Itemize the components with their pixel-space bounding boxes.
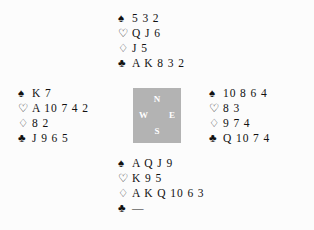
west-clubs-row: ♣ J 9 6 5 xyxy=(18,131,89,146)
west-hearts-row: ♡ A 10 7 4 2 xyxy=(18,101,89,116)
south-spades-row: ♠ A Q J 9 xyxy=(118,156,204,171)
north-spades-cards: 5 3 2 xyxy=(129,11,160,26)
club-icon: ♣ xyxy=(118,201,129,216)
club-icon: ♣ xyxy=(18,131,29,146)
east-diamonds-cards: 9 7 4 xyxy=(220,116,251,131)
north-clubs-cards: A K 8 3 2 xyxy=(129,56,185,71)
club-icon: ♣ xyxy=(209,131,220,146)
hand-west: ♠ K 7 ♡ A 10 7 4 2 ♢ 8 2 ♣ J 9 6 5 xyxy=(18,86,89,146)
hand-east: ♠ 10 8 6 4 ♡ 8 3 ♢ 9 7 4 ♣ Q 10 7 4 xyxy=(209,86,270,146)
east-hearts-row: ♡ 8 3 xyxy=(209,101,270,116)
north-diamonds-cards: J 5 xyxy=(129,41,148,56)
west-hearts-cards: A 10 7 4 2 xyxy=(29,101,89,116)
heart-icon: ♡ xyxy=(118,171,129,186)
north-hearts-cards: Q J 6 xyxy=(129,26,161,41)
spade-icon: ♠ xyxy=(209,86,220,101)
east-clubs-row: ♣ Q 10 7 4 xyxy=(209,131,270,146)
spade-icon: ♠ xyxy=(118,11,129,26)
south-diamonds-row: ♢ A K Q 10 6 3 xyxy=(118,186,204,201)
east-diamonds-row: ♢ 9 7 4 xyxy=(209,116,270,131)
heart-icon: ♡ xyxy=(18,101,29,116)
west-diamonds-row: ♢ 8 2 xyxy=(18,116,89,131)
north-hearts-row: ♡ Q J 6 xyxy=(118,26,185,41)
diamond-icon: ♢ xyxy=(18,116,29,131)
east-spades-cards: 10 8 6 4 xyxy=(220,86,268,101)
east-hearts-cards: 8 3 xyxy=(220,101,240,116)
hand-north: ♠ 5 3 2 ♡ Q J 6 ♢ J 5 ♣ A K 8 3 2 xyxy=(118,11,185,71)
south-hearts-row: ♡ K 9 5 xyxy=(118,171,204,186)
east-spades-row: ♠ 10 8 6 4 xyxy=(209,86,270,101)
west-clubs-cards: J 9 6 5 xyxy=(29,131,69,146)
compass-box: N W E S xyxy=(133,88,181,143)
south-clubs-row: ♣ — xyxy=(118,201,204,216)
west-spades-cards: K 7 xyxy=(29,86,52,101)
club-icon: ♣ xyxy=(118,56,129,71)
diamond-icon: ♢ xyxy=(118,186,129,201)
spade-icon: ♠ xyxy=(18,86,29,101)
spade-icon: ♠ xyxy=(118,156,129,171)
south-hearts-cards: K 9 5 xyxy=(129,171,162,186)
heart-icon: ♡ xyxy=(118,26,129,41)
west-diamonds-cards: 8 2 xyxy=(29,116,49,131)
diamond-icon: ♢ xyxy=(118,41,129,56)
north-clubs-row: ♣ A K 8 3 2 xyxy=(118,56,185,71)
diamond-icon: ♢ xyxy=(209,116,220,131)
south-diamonds-cards: A K Q 10 6 3 xyxy=(129,186,204,201)
compass-south-label: S xyxy=(133,127,181,136)
hand-south: ♠ A Q J 9 ♡ K 9 5 ♢ A K Q 10 6 3 ♣ — xyxy=(118,156,204,216)
north-diamonds-row: ♢ J 5 xyxy=(118,41,185,56)
heart-icon: ♡ xyxy=(209,101,220,116)
north-spades-row: ♠ 5 3 2 xyxy=(118,11,185,26)
bridge-deal-diagram: ♠ 5 3 2 ♡ Q J 6 ♢ J 5 ♣ A K 8 3 2 ♠ K 7 … xyxy=(0,0,314,230)
south-clubs-cards: — xyxy=(129,201,144,216)
west-spades-row: ♠ K 7 xyxy=(18,86,89,101)
south-spades-cards: A Q J 9 xyxy=(129,156,173,171)
east-clubs-cards: Q 10 7 4 xyxy=(220,131,270,146)
